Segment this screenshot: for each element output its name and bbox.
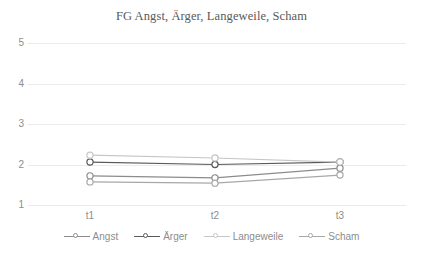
x-axis-tick-t3: t3 xyxy=(320,211,360,221)
legend-marker-icon-scham xyxy=(299,231,325,242)
gridline-2 xyxy=(28,165,406,166)
legend-item-aerger[interactable]: Ärger xyxy=(134,231,187,242)
legend-label-angst: Angst xyxy=(93,231,119,242)
legend-marker-icon-langeweile xyxy=(204,231,230,242)
chart-title: FG Angst, Ärger, Langeweile, Scham xyxy=(0,9,423,24)
gridline-3 xyxy=(28,124,406,125)
x-axis-tick-t2: t2 xyxy=(195,211,235,221)
gridline-4 xyxy=(28,84,406,85)
plot-area xyxy=(28,41,406,207)
legend-item-scham[interactable]: Scham xyxy=(299,231,359,242)
chart-legend: Angst Ärger Langeweile Scham xyxy=(0,231,423,242)
legend-dot-langeweile xyxy=(213,233,218,238)
y-axis-tick-1: 1 xyxy=(6,200,24,210)
gridline-1 xyxy=(28,205,406,206)
gridline-5 xyxy=(28,43,406,44)
y-axis-tick-2: 2 xyxy=(6,160,24,170)
legend-marker-icon-angst xyxy=(64,231,90,242)
legend-label-langeweile: Langeweile xyxy=(233,231,284,242)
legend-label-scham: Scham xyxy=(328,231,359,242)
y-axis-tick-5: 5 xyxy=(6,38,24,48)
y-axis-tick-4: 4 xyxy=(6,79,24,89)
legend-dot-angst xyxy=(73,233,78,238)
line-chart: FG Angst, Ärger, Langeweile, Scham 5 4 3… xyxy=(0,0,423,265)
y-axis-tick-3: 3 xyxy=(6,119,24,129)
legend-marker-icon-aerger xyxy=(134,231,160,242)
legend-item-angst[interactable]: Angst xyxy=(64,231,119,242)
x-axis-tick-t1: t1 xyxy=(70,211,110,221)
legend-item-langeweile[interactable]: Langeweile xyxy=(204,231,284,242)
legend-label-aerger: Ärger xyxy=(163,231,187,242)
